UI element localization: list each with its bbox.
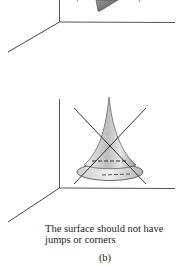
top-surface-shape	[77, 0, 140, 11]
caption-line-1: The surface should not have	[45, 223, 185, 234]
caption-line-2: jumps or corners	[45, 234, 185, 245]
figure-caption: The surface should not have jumps or cor…	[45, 223, 185, 245]
cone-surface	[77, 97, 143, 181]
panel-label: (b)	[0, 252, 185, 263]
top-axes	[8, 0, 175, 52]
